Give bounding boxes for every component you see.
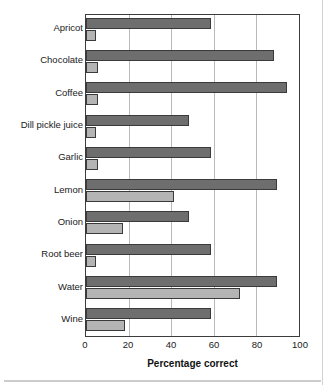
- x-axis-tick-labels: 020406080100: [0, 339, 325, 353]
- bar-row: [86, 80, 299, 112]
- category-axis-labels: ApricotChocolateCoffeeDill pickle juiceG…: [0, 14, 83, 337]
- bar-row: [86, 144, 299, 176]
- bar-light: [86, 256, 96, 267]
- bar-dark: [86, 211, 189, 222]
- x-tick-80: 80: [252, 339, 263, 350]
- bar-row: [86, 273, 299, 305]
- x-tick-40: 40: [166, 339, 177, 350]
- bar-dark: [86, 18, 211, 29]
- category-label-water: Water: [1, 282, 83, 292]
- bar-light: [86, 223, 123, 234]
- x-tick-100: 100: [292, 339, 308, 350]
- bar-dark: [86, 276, 277, 287]
- bar-light: [86, 288, 240, 299]
- category-label-chocolate: Chocolate: [1, 55, 83, 65]
- category-label-garlic: Garlic: [1, 152, 83, 162]
- bar-dark: [86, 244, 211, 255]
- bar-dark: [86, 147, 211, 158]
- bar-light: [86, 320, 125, 331]
- x-tick-0: 0: [82, 339, 87, 350]
- category-label-lemon: Lemon: [1, 185, 83, 195]
- category-label-root-beer: Root beer: [1, 249, 83, 259]
- bar-dark: [86, 115, 189, 126]
- page-edge-bottom-rule: [4, 380, 321, 382]
- bar-row: [86, 177, 299, 209]
- bar-row: [86, 112, 299, 144]
- bar-dark: [86, 308, 211, 319]
- bar-row: [86, 241, 299, 273]
- bar-dark: [86, 82, 287, 93]
- bar-light: [86, 127, 96, 138]
- x-tick-20: 20: [123, 339, 134, 350]
- bar-light: [86, 191, 174, 202]
- category-label-coffee: Coffee: [1, 88, 83, 98]
- category-label-wine: Wine: [1, 314, 83, 324]
- bar-light: [86, 62, 98, 73]
- x-axis-title: Percentage correct: [85, 358, 300, 369]
- plot-area: [85, 14, 300, 337]
- category-label-onion: Onion: [1, 217, 83, 227]
- x-tick-60: 60: [209, 339, 220, 350]
- bar-row: [86, 209, 299, 241]
- bar-light: [86, 30, 96, 41]
- category-label-dill-pickle-juice: Dill pickle juice: [1, 120, 83, 130]
- bar-light: [86, 159, 98, 170]
- bar-light: [86, 94, 98, 105]
- bar-row: [86, 15, 299, 47]
- bar-row: [86, 47, 299, 79]
- bar-dark: [86, 50, 274, 61]
- bar-dark: [86, 179, 277, 190]
- bar-chart-figure: ApricotChocolateCoffeeDill pickle juiceG…: [0, 0, 325, 385]
- bar-row: [86, 306, 299, 338]
- page-edge-right-rule: [322, 0, 323, 385]
- category-label-apricot: Apricot: [1, 23, 83, 33]
